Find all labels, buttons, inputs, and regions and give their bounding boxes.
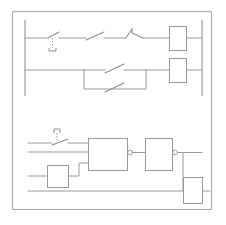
limit-switch-actuator-foot	[49, 48, 56, 51]
input-switch-actuator-marker	[54, 129, 60, 133]
logic-gate-section	[28, 129, 210, 204]
schematic-canvas	[0, 0, 226, 225]
input-line-3-to-gate	[69, 163, 89, 176]
logic-gate-1[interactable]	[89, 139, 128, 171]
logic-gate-2[interactable]	[146, 139, 173, 171]
input-switch-blade	[52, 139, 68, 145]
logic-gate-1-inverted-output-bubble	[128, 150, 133, 155]
limit-switch-blade	[48, 32, 59, 38]
parallel-branch-loop	[84, 70, 146, 89]
parallel-lower-blade	[105, 83, 124, 92]
relay-coil-2[interactable]	[170, 59, 187, 83]
limit-switch-normally-open	[48, 32, 59, 51]
parallel-upper-blade	[105, 64, 124, 73]
relay-coil-1[interactable]	[170, 27, 187, 51]
ladder-logic-section	[25, 20, 202, 96]
contact-normally-closed	[126, 29, 143, 38]
parallel-branch-upper-contact	[105, 64, 124, 73]
contact-nc-blade	[126, 29, 143, 38]
input-switch-normally-open	[52, 129, 68, 145]
contact-no-blade	[86, 32, 104, 40]
rung-1	[25, 27, 202, 52]
schematic-diagram-root	[0, 0, 226, 225]
logic-gate-2-inverted-output-bubble	[173, 150, 178, 155]
rung-2	[25, 59, 202, 93]
contact-normally-open	[86, 32, 104, 40]
parallel-branch-lower-contact	[105, 83, 124, 92]
feedback-block-left[interactable]	[48, 166, 69, 188]
output-block-right[interactable]	[184, 178, 203, 204]
